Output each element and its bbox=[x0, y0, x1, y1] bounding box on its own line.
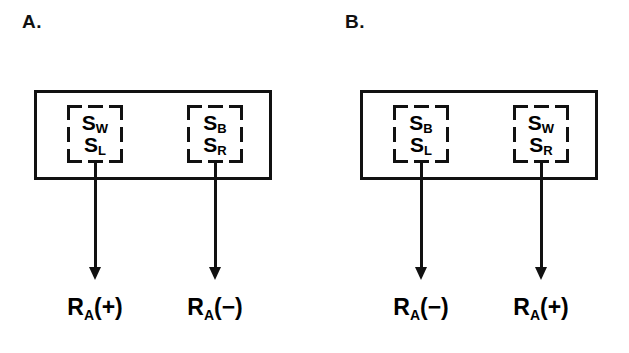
arrow-head-icon bbox=[89, 267, 101, 280]
response-base: R bbox=[67, 294, 84, 320]
response-arrow bbox=[420, 160, 423, 270]
response-valence: (+) bbox=[94, 294, 123, 320]
stimulus-base: S bbox=[82, 111, 96, 134]
response-arrow bbox=[540, 160, 543, 270]
figure-canvas: A.SWSLRA(+)SBSRRA(−)B.SBSLRA(−)SWSRRA(+) bbox=[0, 0, 629, 353]
stimulus-stack: SBSR bbox=[187, 105, 243, 163]
stimulus-compound-box: SWSL bbox=[67, 105, 123, 163]
response-arrow bbox=[94, 160, 97, 270]
stimulus-subscript: L bbox=[98, 143, 106, 158]
stimulus-subscript: W bbox=[542, 121, 554, 136]
stimulus-compound-box: SBSL bbox=[393, 105, 449, 163]
stimulus-subscript: W bbox=[96, 121, 108, 136]
stimulus-base: S bbox=[529, 133, 543, 156]
stimulus-compound-box: SWSR bbox=[513, 105, 569, 163]
arrow-head-icon bbox=[535, 267, 547, 280]
stimulus-base: S bbox=[528, 111, 542, 134]
stimulus-stack: SWSL bbox=[67, 105, 123, 163]
response-base: R bbox=[513, 294, 530, 320]
response-subscript: A bbox=[410, 307, 420, 323]
stimulus-symbol: SB bbox=[203, 112, 226, 134]
stimulus-base: S bbox=[409, 111, 423, 134]
response-valence: (−) bbox=[214, 294, 243, 320]
response-subscript: A bbox=[204, 307, 214, 323]
stimulus-symbol: SL bbox=[84, 134, 106, 156]
response-valence: (+) bbox=[540, 294, 569, 320]
stimulus-symbol: SR bbox=[203, 134, 226, 156]
stimulus-base: S bbox=[410, 133, 424, 156]
stimulus-base: S bbox=[84, 133, 98, 156]
arrow-head-icon bbox=[415, 267, 427, 280]
arrow-head-icon bbox=[209, 267, 221, 280]
response-base: R bbox=[393, 294, 410, 320]
stimulus-subscript: B bbox=[423, 121, 432, 136]
stimulus-subscript: R bbox=[543, 143, 552, 158]
stimulus-base: S bbox=[203, 133, 217, 156]
stimulus-compound-box: SBSR bbox=[187, 105, 243, 163]
response-subscript: A bbox=[530, 307, 540, 323]
response-subscript: A bbox=[84, 307, 94, 323]
stimulus-symbol: SW bbox=[528, 112, 554, 134]
response-arrow bbox=[214, 160, 217, 270]
panel-label-b: B. bbox=[345, 12, 365, 31]
stimulus-subscript: L bbox=[424, 143, 432, 158]
stimulus-symbol: SR bbox=[529, 134, 552, 156]
stimulus-symbol: SL bbox=[410, 134, 432, 156]
stimulus-symbol: SB bbox=[409, 112, 432, 134]
panel-label-a: A. bbox=[22, 12, 42, 31]
stimulus-stack: SWSR bbox=[513, 105, 569, 163]
response-base: R bbox=[187, 294, 204, 320]
response-valence: (−) bbox=[420, 294, 449, 320]
stimulus-subscript: B bbox=[217, 121, 226, 136]
stimulus-base: S bbox=[203, 111, 217, 134]
response-label: RA(+) bbox=[67, 296, 123, 319]
stimulus-subscript: R bbox=[217, 143, 226, 158]
response-label: RA(−) bbox=[187, 296, 243, 319]
stimulus-stack: SBSL bbox=[393, 105, 449, 163]
response-label: RA(+) bbox=[513, 296, 569, 319]
response-label: RA(−) bbox=[393, 296, 449, 319]
stimulus-symbol: SW bbox=[82, 112, 108, 134]
